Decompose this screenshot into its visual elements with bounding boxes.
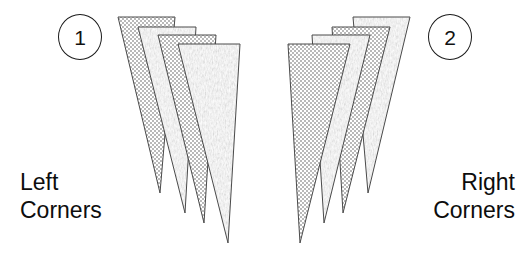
right-corners-label-line1: Right [433,168,515,196]
right-corners-group [288,17,410,243]
callout-2-number: 2 [444,27,456,48]
callout-1-number: 1 [74,27,86,48]
left-corners-label: Left Corners [20,168,102,224]
left-corners-label-line1: Left [20,168,102,196]
right-corners-label-line2: Corners [433,196,515,224]
left-corners-group [118,17,240,243]
callout-2: 2 [428,14,472,60]
corners-diagram: 1 2 Left Corners Right Corners [0,0,529,254]
right-corners-label: Right Corners [433,168,515,224]
left-corners-label-line2: Corners [20,196,102,224]
callout-1: 1 [58,14,102,60]
